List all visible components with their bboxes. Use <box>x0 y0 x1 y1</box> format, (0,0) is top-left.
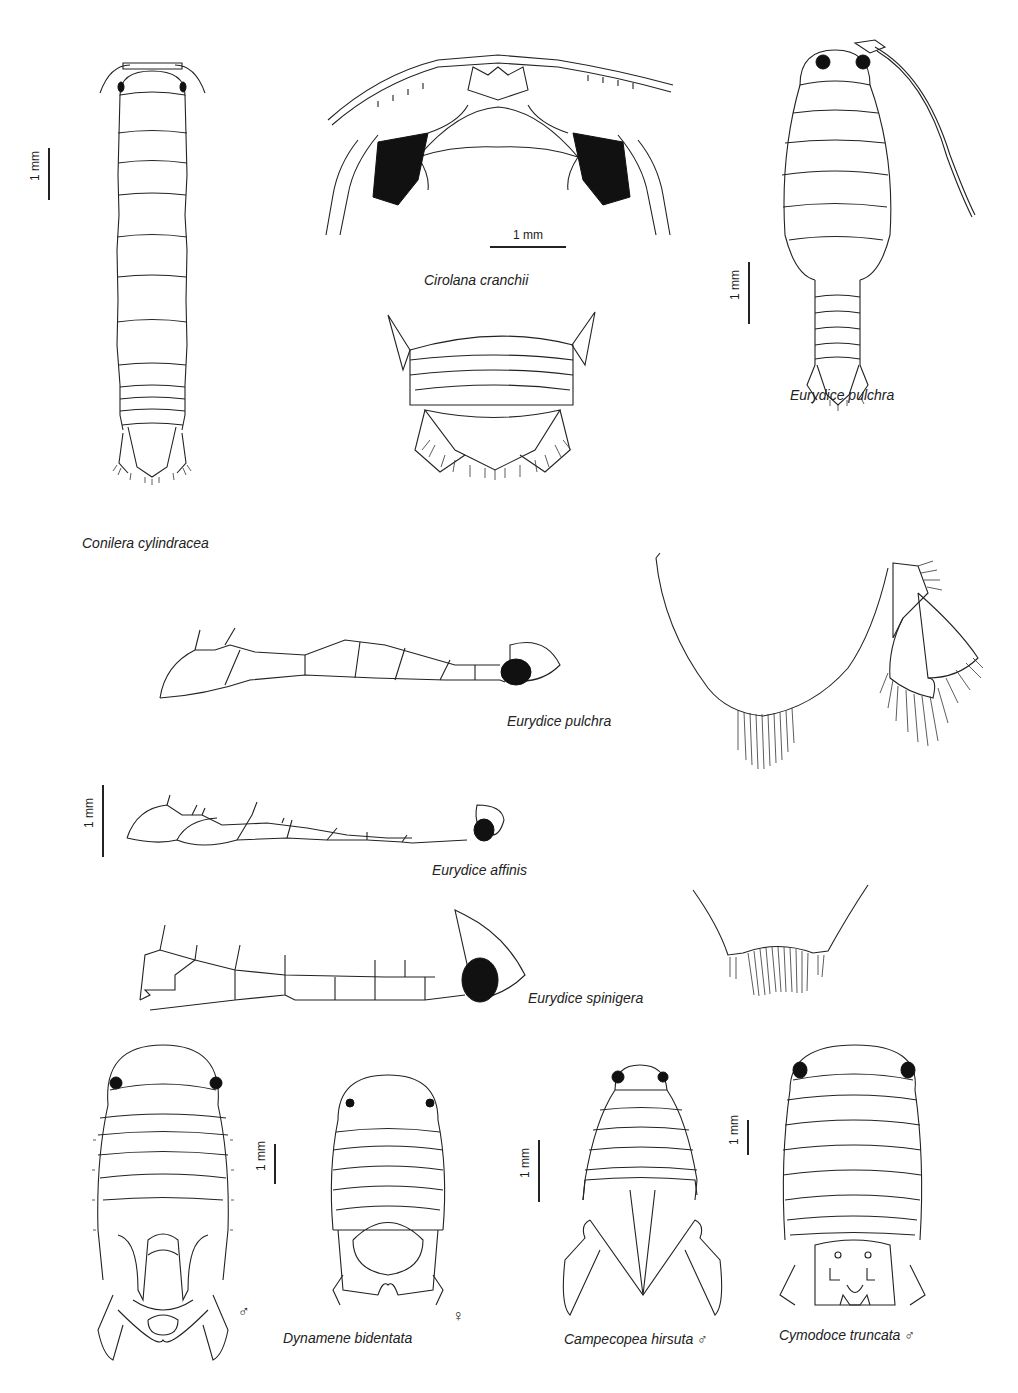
scale-label: 1 mm <box>727 1131 741 1145</box>
scale-bar-campecopea: 1 mm <box>518 1140 540 1202</box>
telson-uropod-detail-illustration <box>648 548 988 773</box>
conilera-dorsal-illustration <box>95 55 210 495</box>
scale-bar-line <box>748 262 750 324</box>
cymodoce-truncata-illustration <box>775 1040 935 1320</box>
scale-bar-cirolana: 1 mm <box>490 228 566 248</box>
scale-label: 1 mm <box>518 1164 532 1178</box>
eurydice-pulchra-antenna-illustration <box>155 620 555 700</box>
caption-cirolana: Cirolana cranchii <box>424 272 528 288</box>
scale-label: 1 mm <box>490 228 566 242</box>
caption-campecopea: Campecopea hirsuta ♂ <box>564 1331 708 1347</box>
caption-eurydice-pulchra-dorsal: Eurydice pulchra <box>790 387 894 403</box>
female-symbol-dynamene: ♀ <box>452 1307 464 1325</box>
cirolana-head-illustration <box>318 45 678 245</box>
scale-label: 1 mm <box>28 167 42 181</box>
scale-bar-cymodoce: 1 mm <box>727 1120 749 1155</box>
scale-bar-dynamene: 1 mm <box>254 1144 276 1184</box>
scale-label: 1 mm <box>254 1157 268 1171</box>
caption-dynamene: Dynamene bidentata <box>283 1330 412 1346</box>
scale-bar-eurydice-pulchra: 1 mm <box>728 262 750 324</box>
eurydice-pulchra-dorsal-illustration <box>775 35 985 445</box>
spinigera-telson-detail-illustration <box>688 875 888 1005</box>
scale-bar-line <box>490 246 566 248</box>
caption-cymodoce: Cymodoce truncata ♂ <box>779 1327 915 1343</box>
pleotelson-detail-illustration <box>385 310 600 480</box>
campecopea-hirsuta-illustration <box>555 1060 745 1320</box>
scale-label: 1 mm <box>82 814 96 828</box>
male-symbol-dynamene: ♂ <box>238 1303 250 1321</box>
eurydice-spinigera-antenna-illustration <box>135 905 535 1005</box>
scale-bar-line <box>747 1120 749 1155</box>
eurydice-affinis-antenna-illustration <box>122 790 512 855</box>
caption-eurydice-pulchra-antenna: Eurydice pulchra <box>507 713 611 729</box>
scale-bar-line <box>102 785 104 857</box>
caption-conilera: Conilera cylindracea <box>82 535 209 551</box>
caption-eurydice-spinigera: Eurydice spinigera <box>528 990 643 1006</box>
scale-bar-conilera: 1 mm <box>28 148 50 200</box>
scale-bar-line <box>274 1144 276 1184</box>
scale-bar-eurydice-affinis: 1 mm <box>82 785 104 857</box>
scale-bar-line <box>48 148 50 200</box>
caption-eurydice-affinis: Eurydice affinis <box>432 862 527 878</box>
dynamene-bidentata-female-illustration <box>328 1070 448 1310</box>
scale-label: 1 mm <box>728 286 742 300</box>
dynamene-bidentata-male-illustration <box>78 1040 248 1360</box>
scale-bar-line <box>538 1140 540 1202</box>
